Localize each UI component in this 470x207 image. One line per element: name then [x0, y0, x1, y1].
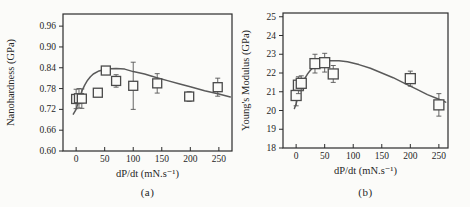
data-points	[72, 62, 223, 109]
y-tick-label: 24	[267, 31, 277, 41]
square-marker	[101, 66, 110, 75]
x-tick-label: 50	[100, 154, 110, 164]
square-marker	[93, 88, 102, 97]
plot-frame	[283, 13, 448, 148]
x-tick-label: 250	[212, 154, 227, 164]
dual-chart-figure: 0.600.660.720.780.840.900.96050100150200…	[0, 0, 470, 207]
plot-frame	[63, 14, 232, 151]
y-axis: 0.600.660.720.780.840.900.96	[39, 21, 63, 156]
square-marker	[77, 94, 86, 103]
x-tick-label: 200	[403, 151, 418, 161]
y-axis-title: Nanohardness (GPa)	[5, 38, 17, 126]
x-tick-label: 150	[375, 151, 390, 161]
y-tick-label: 0.84	[39, 63, 56, 73]
y-tick-label: 23	[267, 49, 277, 59]
x-axis: 050100150200250	[294, 144, 446, 161]
y-tick-label: 25	[267, 12, 277, 22]
square-marker	[434, 100, 444, 110]
x-tick-label: 250	[432, 151, 447, 161]
y-axis-title: Young's Modulus (GPa)	[240, 29, 252, 131]
square-marker	[185, 92, 194, 101]
square-marker	[291, 91, 301, 101]
x-tick-label: 200	[183, 154, 198, 164]
x-tick-label: 0	[74, 154, 79, 164]
x-tick-label: 0	[294, 151, 299, 161]
y-tick-label: 20	[267, 106, 277, 116]
nanohardness-chart: 0.600.660.720.780.840.900.96050100150200…	[5, 14, 232, 180]
square-marker	[112, 76, 121, 85]
y-tick-label: 22	[267, 68, 277, 78]
square-marker	[296, 78, 306, 88]
x-tick-label: 50	[320, 151, 330, 161]
y-tick-label: 19	[267, 124, 277, 134]
chart-a-caption: (a)	[63, 186, 232, 198]
y-tick-label: 0.96	[39, 21, 56, 31]
square-marker	[320, 58, 330, 68]
square-marker	[213, 83, 222, 92]
y-tick-label: 0.66	[39, 125, 56, 135]
square-marker	[310, 59, 320, 69]
square-marker	[405, 74, 415, 84]
y-axis: 1819202122232425	[267, 12, 284, 153]
x-tick-label: 100	[346, 151, 361, 161]
x-tick-label: 150	[155, 154, 170, 164]
charts-canvas: 0.600.660.720.780.840.900.96050100150200…	[0, 0, 470, 186]
chart-b-caption: (b)	[283, 186, 448, 198]
square-marker	[153, 79, 162, 88]
x-axis-title: dP/dt (mN.s⁻¹)	[334, 165, 397, 177]
square-marker	[328, 69, 338, 79]
y-tick-label: 0.72	[39, 104, 56, 114]
y-tick-label: 18	[267, 143, 277, 153]
y-tick-label: 0.90	[39, 42, 56, 52]
x-axis: 050100150200250	[74, 147, 226, 164]
x-tick-label: 100	[126, 154, 141, 164]
y-tick-label: 0.60	[39, 146, 56, 156]
y-tick-label: 0.78	[39, 84, 56, 94]
data-points	[291, 53, 444, 116]
youngs-modulus-chart: 1819202122232425050100150200250dP/dt (mN…	[240, 12, 448, 177]
x-axis-title: dP/dt (mN.s⁻¹)	[116, 168, 179, 180]
y-tick-label: 21	[267, 87, 277, 97]
square-marker	[129, 81, 138, 90]
